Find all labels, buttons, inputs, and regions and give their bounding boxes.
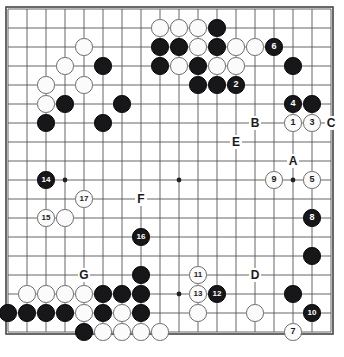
- stone-black[interactable]: [132, 285, 149, 302]
- stone-white[interactable]: [37, 285, 54, 302]
- stone-white-move-15[interactable]: 15: [37, 209, 54, 226]
- stone-black-move-2[interactable]: 2: [227, 76, 244, 93]
- stone-black-move-16[interactable]: 16: [132, 228, 149, 245]
- stone-white[interactable]: [189, 38, 206, 55]
- stone-white[interactable]: [151, 19, 168, 36]
- stone-black[interactable]: [94, 114, 111, 131]
- board-border: [6, 7, 333, 334]
- stone-white[interactable]: [151, 323, 168, 340]
- stone-white[interactable]: [189, 19, 206, 36]
- stone-white[interactable]: [170, 19, 187, 36]
- stone-white[interactable]: [246, 38, 263, 55]
- stone-white-move-11[interactable]: 11: [189, 266, 206, 283]
- star-point: [177, 292, 182, 297]
- stone-black-move-6[interactable]: 6: [265, 38, 282, 55]
- stone-black[interactable]: [0, 304, 17, 321]
- stone-white[interactable]: [18, 285, 35, 302]
- stone-black-move-14[interactable]: 14: [37, 171, 54, 188]
- stone-white[interactable]: [113, 304, 130, 321]
- reference-marker-c[interactable]: C: [325, 116, 337, 130]
- stone-white[interactable]: [208, 57, 225, 74]
- stone-black[interactable]: [284, 57, 301, 74]
- stone-white-move-9[interactable]: 9: [265, 171, 282, 188]
- stone-white[interactable]: [75, 304, 92, 321]
- stone-black[interactable]: [151, 57, 168, 74]
- stone-black[interactable]: [132, 304, 149, 321]
- stone-black[interactable]: [94, 285, 111, 302]
- stone-black[interactable]: [113, 95, 130, 112]
- reference-marker-d[interactable]: D: [249, 268, 261, 282]
- stone-black-move-4[interactable]: 4: [284, 95, 301, 112]
- stone-black[interactable]: [189, 76, 206, 93]
- stone-white-move-1[interactable]: 1: [284, 114, 301, 131]
- stone-black[interactable]: [56, 95, 73, 112]
- stone-black[interactable]: [208, 38, 225, 55]
- stone-black[interactable]: [284, 285, 301, 302]
- stone-white-move-7[interactable]: 7: [284, 323, 301, 340]
- stone-white[interactable]: [227, 38, 244, 55]
- stone-black[interactable]: [303, 247, 320, 264]
- stone-black-move-8[interactable]: 8: [303, 209, 320, 226]
- stone-black[interactable]: [94, 57, 111, 74]
- stone-white[interactable]: [37, 76, 54, 93]
- stone-black[interactable]: [37, 304, 54, 321]
- star-point: [291, 178, 296, 183]
- stone-white[interactable]: [56, 285, 73, 302]
- stone-white[interactable]: [75, 38, 92, 55]
- stone-white[interactable]: [170, 57, 187, 74]
- stone-white[interactable]: [75, 76, 92, 93]
- stone-white[interactable]: [189, 304, 206, 321]
- stone-black[interactable]: [18, 304, 35, 321]
- go-board-diagram: 6241314951781516111312107 ABCEFGD Go Boa…: [0, 0, 344, 357]
- star-point: [63, 178, 68, 183]
- stone-black[interactable]: [75, 323, 92, 340]
- stone-white[interactable]: [113, 323, 130, 340]
- stone-black[interactable]: [37, 114, 54, 131]
- stone-white-move-3[interactable]: 3: [303, 114, 320, 131]
- stone-black-move-10[interactable]: 10: [303, 304, 320, 321]
- stone-black[interactable]: [113, 285, 130, 302]
- stone-white-move-13[interactable]: 13: [189, 285, 206, 302]
- stone-black[interactable]: [170, 38, 187, 55]
- stone-black[interactable]: [94, 304, 111, 321]
- reference-marker-b[interactable]: B: [249, 116, 261, 130]
- stone-black[interactable]: [189, 57, 206, 74]
- star-point: [177, 178, 182, 183]
- stone-black-move-12[interactable]: 12: [208, 285, 225, 302]
- stone-black[interactable]: [132, 266, 149, 283]
- stone-white[interactable]: [94, 323, 111, 340]
- stone-white[interactable]: [37, 95, 54, 112]
- reference-marker-f[interactable]: F: [135, 192, 147, 206]
- stone-white[interactable]: [227, 57, 244, 74]
- stone-black[interactable]: [56, 304, 73, 321]
- stone-black[interactable]: [208, 76, 225, 93]
- stone-white[interactable]: [56, 209, 73, 226]
- stone-white[interactable]: [56, 57, 73, 74]
- stone-black[interactable]: [151, 38, 168, 55]
- stone-white[interactable]: [246, 304, 263, 321]
- stone-white-move-17[interactable]: 17: [75, 190, 92, 207]
- reference-marker-a[interactable]: A: [287, 154, 299, 168]
- reference-marker-g[interactable]: G: [78, 268, 90, 282]
- stone-black[interactable]: [303, 95, 320, 112]
- stone-white[interactable]: [132, 323, 149, 340]
- stone-white-move-5[interactable]: 5: [303, 171, 320, 188]
- stone-black[interactable]: [208, 19, 225, 36]
- reference-marker-e[interactable]: E: [230, 135, 242, 149]
- stone-white[interactable]: [75, 285, 92, 302]
